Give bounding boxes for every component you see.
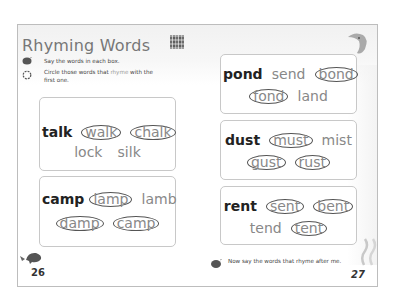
word[interactable]: send	[272, 66, 306, 82]
instruction-text: Say the words in each box.	[44, 58, 120, 64]
steam-swirl-icon	[360, 237, 378, 267]
word-line: pond send bond	[221, 64, 356, 83]
key-word: camp	[42, 191, 84, 207]
speaking-bird-icon	[22, 57, 32, 65]
circle-pencil-icon	[22, 70, 32, 80]
key-word: rent	[224, 198, 257, 214]
circled-word[interactable]: walk	[81, 125, 121, 140]
instruction-circle: Circle those words that rhyme with the f…	[44, 68, 164, 84]
whale-icon	[20, 250, 44, 264]
circled-word[interactable]: fond	[249, 89, 288, 104]
circled-word[interactable]: camp	[113, 216, 160, 231]
word[interactable]: tend	[250, 220, 282, 236]
word[interactable]: land	[298, 88, 328, 104]
rhyme-box-rent: rent sent bent tend tent	[220, 186, 357, 245]
circled-word[interactable]: must	[269, 133, 312, 148]
key-word: pond	[223, 66, 263, 82]
workbook-spread: Rhyming Words Say the words in each box.…	[17, 24, 378, 287]
footer-instruction: Now say the words that rhyme after me.	[228, 257, 348, 265]
word[interactable]: lamb	[142, 191, 177, 207]
circled-word[interactable]: gust	[247, 155, 286, 170]
page-title: Rhyming Words	[22, 36, 150, 55]
key-word: dust	[225, 132, 260, 148]
word-line: dust must mist	[221, 130, 356, 149]
rhyme-box-talk: talk walk chalk lock silk	[39, 97, 176, 171]
page-number-left: 26	[31, 267, 45, 278]
word[interactable]: mist	[322, 132, 352, 148]
circled-word[interactable]: bent	[313, 199, 353, 214]
word[interactable]: silk	[118, 144, 141, 160]
dolphin-icon	[345, 29, 371, 57]
highlight-word: rhyme	[110, 69, 128, 75]
speaking-bird-icon	[210, 259, 222, 269]
word-line: camp lamp lamb	[40, 189, 175, 208]
rhyme-box-dust: dust must mist gust rust	[220, 120, 357, 180]
word-line: talk walk chalk	[40, 122, 175, 141]
word-line: gust rust	[221, 152, 356, 171]
rhyme-box-pond: pond send bond fond land	[220, 54, 357, 114]
key-word: talk	[42, 124, 72, 140]
circled-word[interactable]: lamp	[89, 192, 132, 207]
word-line: tend tent	[221, 218, 356, 237]
circled-word[interactable]: bond	[315, 67, 358, 82]
page-number-right: 27	[351, 269, 365, 280]
word-line: rent sent bent	[221, 196, 356, 215]
rhyme-box-camp: camp lamp lamb damp camp	[39, 176, 176, 247]
word-line: fond land	[221, 86, 356, 105]
circled-word[interactable]: sent	[266, 199, 304, 214]
word[interactable]: lock	[74, 144, 102, 160]
qr-code-icon[interactable]	[170, 35, 184, 49]
circled-word[interactable]: chalk	[130, 125, 175, 140]
word-line: lock silk	[40, 142, 175, 161]
circled-word[interactable]: tent	[291, 221, 327, 236]
instruction-text: Circle those words that	[44, 69, 110, 75]
circled-word[interactable]: damp	[56, 216, 104, 231]
circled-word[interactable]: rust	[295, 155, 330, 170]
word-line: damp camp	[40, 213, 175, 232]
instruction-say: Say the words in each box.	[44, 57, 120, 65]
